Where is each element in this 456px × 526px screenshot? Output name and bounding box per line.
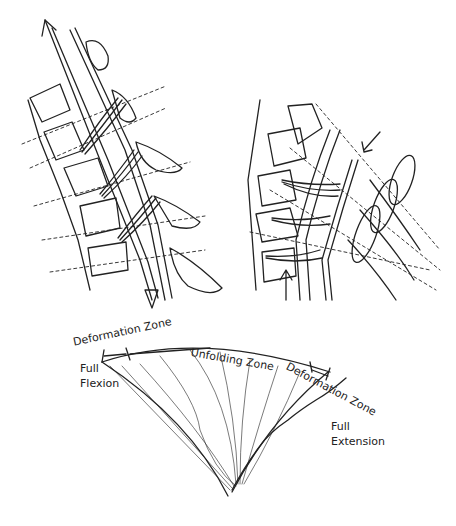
- label-full-flexion-2: Flexion: [80, 377, 119, 390]
- spine-illustration: [0, 0, 456, 526]
- right-spine-panel: [248, 100, 440, 300]
- label-full-extension-1: Full: [331, 420, 350, 433]
- label-full-extension-2: Extension: [331, 435, 385, 448]
- left-spine-panel: [22, 20, 222, 308]
- label-full-flexion-1: Full: [80, 362, 99, 375]
